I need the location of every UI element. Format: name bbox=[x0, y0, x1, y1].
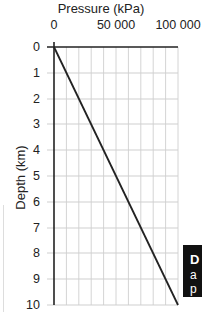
callout-box: D a p bbox=[183, 245, 202, 297]
callout-line: a bbox=[190, 268, 197, 282]
plot-area bbox=[0, 0, 202, 312]
callout-line: p bbox=[190, 282, 197, 296]
left-divider bbox=[3, 205, 4, 312]
callout-line: D bbox=[190, 252, 199, 267]
